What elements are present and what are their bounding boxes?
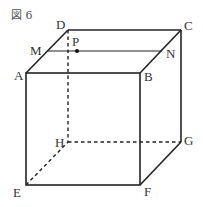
label-H: H [55,135,64,150]
label-D: D [56,17,65,32]
label-G: G [184,133,193,148]
edge-FG [140,142,181,185]
label-N: N [166,46,176,61]
label-E: E [13,185,21,200]
label-M: M [30,43,42,58]
label-P: P [72,34,79,49]
label-C: C [184,18,193,33]
point-P [75,49,79,53]
label-A: A [14,68,24,83]
label-F: F [144,184,151,199]
front-face-ABFE [26,73,140,185]
cube-diagram: D C M P N A B H G E F [0,0,203,207]
label-B: B [144,69,153,84]
